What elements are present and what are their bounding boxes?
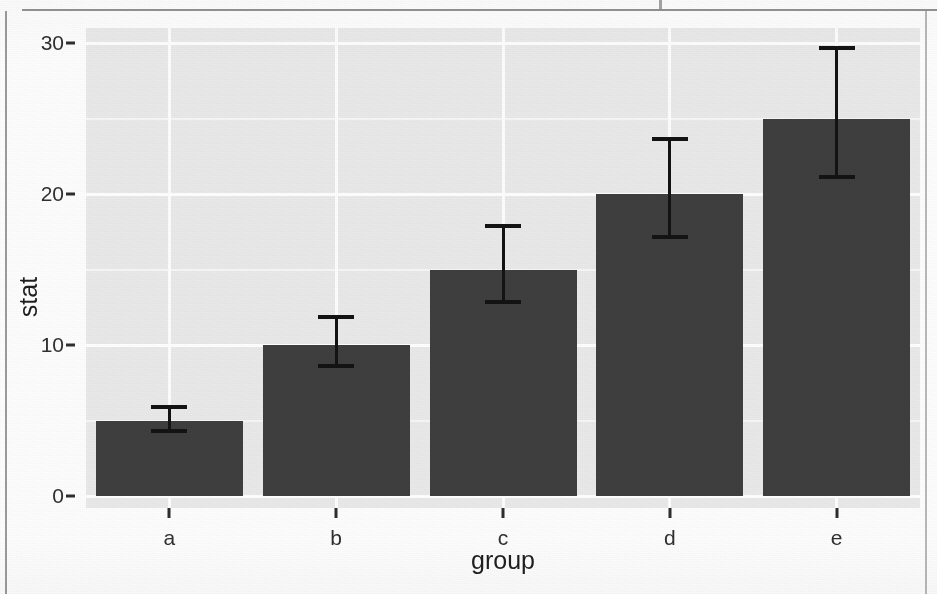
y-tick-mark-30 — [66, 42, 75, 45]
errorbar-cap-bottom — [318, 364, 354, 368]
x-tick-mark-b — [335, 508, 338, 518]
y-axis-label: stat — [14, 277, 43, 317]
x-tick-mark-c — [502, 508, 505, 518]
y-tick-label-0: 0 — [52, 484, 64, 508]
x-tick-label-e: e — [831, 526, 843, 550]
x-tick-label-b: b — [330, 526, 342, 550]
y-tick-label-30: 30 — [41, 31, 64, 55]
errorbar-cap-bottom — [652, 235, 688, 239]
x-tick-label-d: d — [664, 526, 676, 550]
bar-d — [596, 194, 743, 496]
errorbar-c — [483, 224, 523, 304]
y-tick-label-20: 20 — [41, 182, 64, 206]
bar-b — [263, 345, 410, 496]
x-axis-label: group — [471, 546, 535, 575]
errorbar-stem — [835, 46, 838, 179]
errorbar-cap-bottom — [485, 300, 521, 304]
x-tick-mark-a — [168, 508, 171, 518]
scanned-page: 0102030 stat abcde group — [0, 0, 937, 594]
x-tick-mark-e — [835, 508, 838, 518]
errorbar-cap-bottom — [819, 175, 855, 179]
errorbar-b — [316, 315, 356, 368]
errorbar-stem — [668, 137, 671, 240]
errorbar-cap-bottom — [151, 429, 187, 433]
bar-chart-with-error-bars: 0102030 stat abcde group — [0, 0, 937, 594]
y-tick-label-10: 10 — [41, 333, 64, 357]
errorbar-stem — [335, 315, 338, 368]
y-tick-mark-0 — [66, 495, 75, 498]
errorbar-d — [650, 137, 690, 240]
x-tick-mark-d — [668, 508, 671, 518]
plot-panel — [86, 28, 920, 508]
x-tick-label-a: a — [164, 526, 176, 550]
y-tick-mark-10 — [66, 344, 75, 347]
y-tick-mark-20 — [66, 193, 75, 196]
errorbar-stem — [502, 224, 505, 304]
errorbar-a — [149, 405, 189, 432]
errorbar-e — [817, 46, 857, 179]
x-axis: abcde — [0, 508, 937, 554]
